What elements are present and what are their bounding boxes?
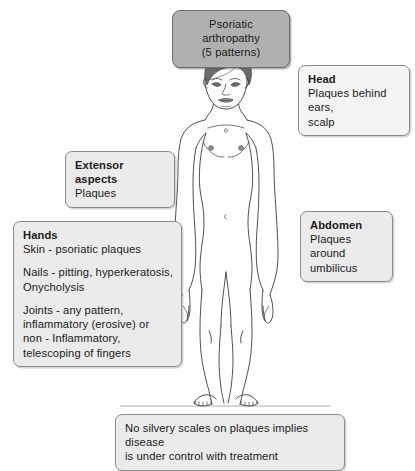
right-nipple xyxy=(239,146,244,151)
hands-box-spacer-1 xyxy=(23,256,173,265)
right-leg-outer-line xyxy=(240,290,252,404)
right-hip-line xyxy=(250,244,252,290)
hands-box-skin-line: Skin - psoriatic plaques xyxy=(23,242,173,256)
left-leg-outer-line xyxy=(200,290,212,404)
extensor-box-heading: Extensor aspects xyxy=(75,158,166,186)
bottom-note-line-1: No silvery scales on plaques implies dis… xyxy=(125,421,336,449)
right-trunk-line xyxy=(246,133,253,244)
right-leg-inner-line xyxy=(228,326,233,403)
hands-box-heading: Hands xyxy=(23,228,173,242)
crotch-center-line xyxy=(221,272,226,326)
head-box-line-2: scalp xyxy=(308,115,401,129)
left-leg-inner-line xyxy=(219,326,224,403)
right-foot-top-line xyxy=(236,395,258,403)
umbilicus xyxy=(224,215,226,218)
hands-box-joints-line-3: non - Inflammatory, xyxy=(23,331,173,345)
clavicle-line xyxy=(208,125,244,128)
left-nipple xyxy=(209,146,214,151)
sternal-notch xyxy=(224,129,227,132)
abdomen-box-line-2: umbilicus xyxy=(310,261,384,275)
head-box-heading: Head xyxy=(308,72,401,86)
abdomen-label-box: Abdomen Plaques around umbilicus xyxy=(300,211,393,282)
extensor-box-line-1: Plaques xyxy=(75,186,166,200)
title-line-1: Psoriatic arthropathy xyxy=(181,17,281,45)
right-pectoral-line xyxy=(228,142,249,157)
hands-box-spacer-2 xyxy=(23,294,173,303)
left-hand-finger-line xyxy=(183,306,188,316)
hands-label-box: Hands Skin - psoriatic plaques Nails - p… xyxy=(13,221,182,367)
abdomen-box-heading: Abdomen xyxy=(310,218,384,232)
right-toes-lines xyxy=(241,401,257,405)
extensor-label-box: Extensor aspects Plaques xyxy=(65,151,175,208)
head-box-line-1: Plaques behind ears, xyxy=(308,86,401,114)
right-hand-outline xyxy=(263,295,273,323)
left-arm-inner-line xyxy=(189,148,196,290)
right-arm-inner-line xyxy=(256,148,263,290)
head-label-box: Head Plaques behind ears, scalp xyxy=(298,65,410,136)
left-toes-lines xyxy=(195,401,211,405)
hands-box-joints-line-2: inflammatory (erosive) or xyxy=(23,317,173,331)
title-box: Psoriatic arthropathy (5 patterns) xyxy=(172,10,290,68)
left-pectoral-line xyxy=(203,142,224,157)
crotch-center-line-2 xyxy=(226,272,231,326)
left-knee-line xyxy=(209,331,211,343)
left-hip-line xyxy=(200,244,202,290)
left-trunk-line xyxy=(199,133,206,244)
hands-box-nails-line-1: Nails - pitting, hyperkeratosis, xyxy=(23,265,173,279)
bottom-note-line-2: is under control with treatment xyxy=(125,449,336,463)
abdomen-box-line-1: Plaques around xyxy=(310,232,384,260)
right-armpit-line xyxy=(246,133,256,148)
bottom-note-box: No silvery scales on plaques implies dis… xyxy=(115,414,345,471)
right-hand-finger-line xyxy=(264,306,269,316)
left-armpit-line xyxy=(196,133,206,148)
hands-box-joints-line-4: telescoping of fingers xyxy=(23,346,173,360)
hands-box-nails-line-2: Onycholysis xyxy=(23,280,173,294)
title-line-2: (5 patterns) xyxy=(181,45,281,59)
right-knee-line xyxy=(241,331,243,343)
left-foot-top-line xyxy=(194,395,216,403)
hands-box-joints-line-1: Joints - any pattern, xyxy=(23,303,173,317)
